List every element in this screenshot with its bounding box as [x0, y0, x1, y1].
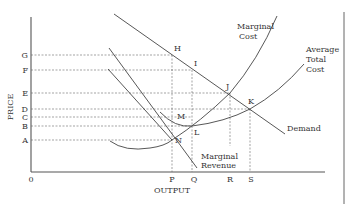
point-i-label: I [194, 59, 197, 68]
x-axis-label: OUTPUT [154, 186, 191, 195]
price-b-label: B [22, 122, 28, 131]
price-g-label: G [22, 51, 28, 60]
price-c-label: C [22, 113, 28, 122]
atc-label-3: Cost [306, 65, 325, 74]
point-k-label: K [248, 97, 255, 106]
diagonal-line [108, 69, 172, 140]
point-m-label: M [177, 112, 185, 121]
y-axis-label: PRICE [6, 94, 15, 121]
output-q-label: Q [191, 175, 198, 184]
point-n-label: N [175, 136, 182, 145]
mr-label-2: Revenue [201, 161, 236, 170]
price-f-label: F [22, 66, 28, 75]
mc-label-1: Marginal [237, 22, 274, 31]
cost-revenue-diagram: PRICE OUTPUT 0 G F E D C B A P Q R S H I… [0, 0, 350, 204]
origin-label: 0 [28, 175, 33, 184]
point-j-label: J [225, 82, 229, 91]
output-p-label: P [169, 175, 175, 184]
atc-label-2: Total [306, 55, 327, 64]
atc-label-1: Average [305, 45, 339, 54]
point-l-label: L [194, 128, 200, 137]
point-h-label: H [174, 44, 181, 53]
price-a-label: A [21, 136, 28, 145]
demand-curve [114, 14, 285, 134]
demand-label: Demand [287, 124, 321, 133]
price-e-label: E [22, 89, 28, 98]
marginal-revenue-curve [109, 48, 197, 168]
output-r-label: R [227, 175, 234, 184]
mc-label-2: Cost [239, 32, 258, 41]
output-s-label: S [248, 175, 253, 184]
mr-label-1: Marginal [201, 152, 238, 161]
